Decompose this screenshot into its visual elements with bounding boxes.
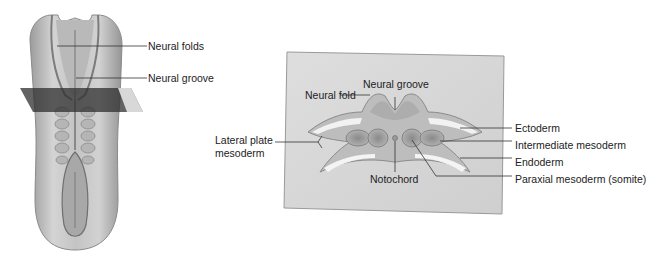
embryo-dorsal-view: [20, 15, 143, 250]
label-lateral-plate-line1: Lateral plate: [215, 134, 273, 146]
diagram-artwork: [0, 0, 663, 258]
label-neural-groove-left: Neural groove: [148, 72, 214, 84]
label-paraxial-mesoderm: Paraxial mesoderm (somite): [515, 173, 646, 185]
label-neural-folds: Neural folds: [148, 40, 204, 52]
label-endoderm: Endoderm: [515, 156, 563, 168]
label-intermediate-mesoderm: Intermediate mesoderm: [515, 139, 626, 151]
label-neural-fold: Neural fold: [305, 89, 356, 101]
label-lateral-plate-line2: mesoderm: [215, 147, 265, 159]
label-ectoderm: Ectoderm: [515, 122, 560, 134]
neurulation-diagram: Neural folds Neural groove Neural groove…: [0, 0, 663, 258]
label-notochord: Notochord: [370, 173, 418, 185]
label-neural-groove: Neural groove: [363, 78, 429, 90]
